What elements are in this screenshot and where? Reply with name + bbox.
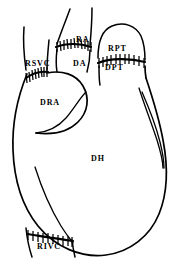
donor-aorta-left-wall [56, 49, 57, 72]
donor-heart-right-upper-border [145, 66, 146, 78]
left-caval-groove [35, 167, 73, 243]
donor-pulmonary-trunk-left-wall [99, 66, 100, 85]
recipient-pulmonary-trunk-outline [98, 24, 145, 60]
label-ra: RA [76, 36, 89, 44]
recipient-ivc-left-wall [26, 228, 32, 257]
heart-transplant-diagram: RSVC RA DA RPT DPT DRA DH RIVC [0, 0, 188, 268]
label-dh: DH [91, 155, 105, 163]
label-dra: DRA [40, 99, 60, 107]
recipient-aorta-right-wall [90, 8, 92, 45]
right-lateral-vessel-groove [139, 88, 163, 168]
recipient-aorta-left-wall [57, 9, 70, 44]
label-da: DA [73, 60, 86, 68]
label-rsvc: RSVC [25, 60, 50, 68]
label-rivc: RIVC [37, 243, 61, 251]
heart-anatomy-drawing [0, 0, 188, 268]
superior-caval-suture-line [26, 67, 48, 83]
donor-aorta-right-wall [87, 50, 90, 72]
label-rpt: RPT [108, 45, 127, 53]
label-dpt: DPT [105, 64, 124, 72]
